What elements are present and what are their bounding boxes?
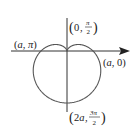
cardioid-diagram: (a, π) ( 0 , π 2 ) (a, 0) ( 2a , 3π 2 xyxy=(0,0,136,130)
svg-text:2: 2 xyxy=(87,28,91,36)
svg-text:(a, π): (a, π) xyxy=(14,39,37,51)
svg-text:): ) xyxy=(101,110,106,126)
svg-text:,: , xyxy=(85,112,88,123)
svg-text:,: , xyxy=(80,22,83,33)
svg-text:π: π xyxy=(86,19,90,27)
svg-text:2a: 2a xyxy=(74,112,85,123)
label-a-pi: (a, π) xyxy=(14,39,37,51)
svg-text:): ) xyxy=(93,20,98,36)
svg-text:0: 0 xyxy=(74,22,79,33)
svg-text:(a, 0): (a, 0) xyxy=(103,57,126,69)
svg-text:3π: 3π xyxy=(89,109,98,117)
label-a-zero: (a, 0) xyxy=(103,57,126,69)
label-zero-half-pi: ( 0 , π 2 ) xyxy=(69,19,98,36)
svg-text:2: 2 xyxy=(93,119,97,127)
label-2a-three-half-pi: ( 2a , 3π 2 ) xyxy=(69,109,106,127)
